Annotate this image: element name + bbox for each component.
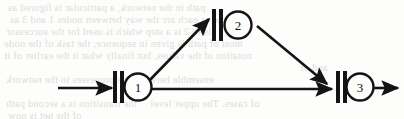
node-3[interactable]: 3 — [336, 71, 374, 103]
node-1-transition-bar-1 — [113, 71, 117, 103]
node-2-label: 2 — [235, 18, 242, 33]
node-3-transition-bar-1 — [336, 71, 340, 103]
arrow-1-to-2 — [146, 19, 209, 84]
node-2[interactable]: 2 — [212, 9, 252, 41]
petri-net-diagram: 123 — [0, 0, 404, 119]
node-1-label: 1 — [135, 80, 142, 95]
node-1[interactable]: 1 — [113, 71, 152, 103]
node-3-label: 3 — [357, 80, 364, 95]
diagram-canvas: path in the network, a particular is fig… — [0, 0, 404, 119]
arrow-2-to-3 — [257, 26, 327, 84]
node-2-transition-bar-1 — [212, 9, 216, 41]
node-2-transition-bar-2 — [219, 9, 223, 41]
